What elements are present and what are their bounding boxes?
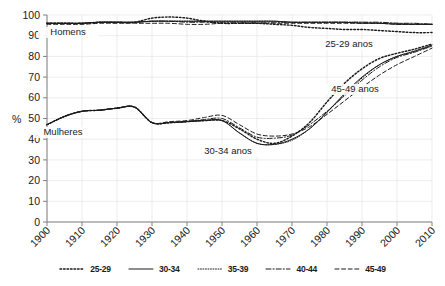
legend-label: 35-39 bbox=[228, 264, 249, 274]
x-axis: 1900191019201930194019501960197019801990… bbox=[27, 222, 437, 249]
annotation-label: Mulheres bbox=[43, 126, 82, 137]
data-lines bbox=[47, 17, 432, 145]
y-axis-tick-label: 30 bbox=[28, 154, 40, 166]
x-axis-tick-label: 1970 bbox=[272, 224, 297, 249]
legend-item-25-29[interactable]: 25-29 bbox=[59, 264, 111, 274]
x-axis-tick-label: 1900 bbox=[27, 224, 52, 249]
x-axis-tick-label: 1950 bbox=[202, 224, 227, 249]
legend-item-30-34[interactable]: 30-34 bbox=[128, 264, 180, 274]
legend-item-40-44[interactable]: 40-44 bbox=[265, 264, 317, 274]
y-axis-tick-label: 0 bbox=[34, 216, 40, 228]
x-axis-tick-label: 1930 bbox=[132, 224, 157, 249]
legend-swatch-fine-dotted bbox=[197, 265, 223, 273]
annotation-label: 45-49 anos bbox=[331, 83, 379, 94]
legend-label: 45-49 bbox=[365, 264, 386, 274]
annotation-label: 25-29 anos bbox=[325, 38, 373, 49]
x-axis-tick-label: 1940 bbox=[167, 224, 192, 249]
annotation-label: 30-34 anos bbox=[204, 145, 252, 156]
x-axis-tick-label: 2000 bbox=[377, 224, 402, 249]
y-axis-tick-label: 70 bbox=[28, 71, 40, 83]
legend-label: 25-29 bbox=[90, 264, 111, 274]
series-line-25-29 bbox=[47, 17, 432, 33]
legend-item-45-49[interactable]: 45-49 bbox=[334, 264, 386, 274]
legend-swatch-dotted bbox=[59, 265, 85, 273]
legend-swatch-dash-dot bbox=[265, 265, 291, 273]
legend-label: 30-34 bbox=[159, 264, 180, 274]
y-axis-tick-label: 20 bbox=[28, 174, 40, 186]
y-axis-tick-label: 80 bbox=[28, 50, 40, 62]
x-axis-tick-label: 1910 bbox=[62, 224, 87, 249]
y-axis-tick-label: 10 bbox=[28, 195, 40, 207]
series-line-35-39 bbox=[47, 46, 432, 145]
x-axis-tick-label: 2010 bbox=[412, 224, 437, 249]
x-axis-tick-label: 1960 bbox=[237, 224, 262, 249]
y-axis: 0102030405060708090100 bbox=[22, 9, 47, 228]
chart-container: 0102030405060708090100%19001910192019301… bbox=[0, 0, 445, 286]
legend-swatch-dashed bbox=[334, 265, 360, 273]
y-axis-tick-label: 50 bbox=[28, 112, 40, 124]
line-chart: 0102030405060708090100%19001910192019301… bbox=[0, 0, 445, 286]
chart-annotations: HomensMulheres25-29 anos45-49 anos30-34 … bbox=[33, 26, 385, 157]
x-axis-tick-label: 1920 bbox=[97, 224, 122, 249]
y-axis-tick-label: 60 bbox=[28, 91, 40, 103]
legend-item-35-39[interactable]: 35-39 bbox=[197, 264, 249, 274]
x-axis-tick-label: 1990 bbox=[342, 224, 367, 249]
legend-label: 40-44 bbox=[296, 264, 317, 274]
y-axis-tick-label: 100 bbox=[22, 9, 40, 21]
x-axis-tick-label: 1980 bbox=[307, 224, 332, 249]
y-axis-title: % bbox=[12, 113, 21, 125]
chart-legend: 25-2930-3435-3940-4445-49 bbox=[0, 258, 445, 280]
legend-swatch-solid bbox=[128, 265, 154, 273]
series-group-homens bbox=[47, 17, 432, 33]
annotation-label: Homens bbox=[50, 26, 86, 37]
